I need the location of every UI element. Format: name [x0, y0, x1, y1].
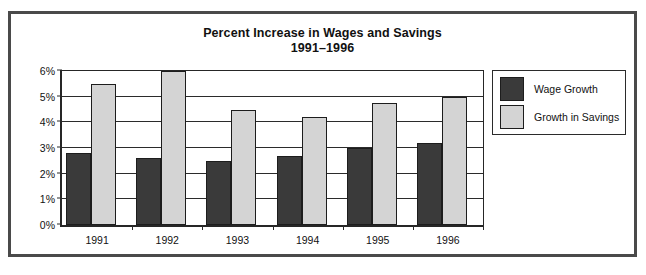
bar-1993-wage-growth[interactable]: [206, 161, 231, 225]
y-axis-label: 6%: [40, 65, 55, 77]
y-axis-label: 4%: [40, 116, 55, 128]
x-axis-tick: [343, 225, 344, 230]
x-axis-tick: [132, 225, 133, 230]
bar-group: [273, 71, 343, 225]
chart-legend: Wage GrowthGrowth in Savings: [492, 70, 626, 135]
bar-group: [413, 71, 483, 225]
chart-title-block: Percent Increase in Wages and Savings 19…: [11, 26, 634, 56]
y-axis-label: 5%: [40, 91, 55, 103]
chart-frame: Percent Increase in Wages and Savings 19…: [8, 11, 637, 257]
bar-1996-wage-growth[interactable]: [417, 143, 442, 225]
y-axis-label: 0%: [40, 219, 55, 231]
page-title: Percent Increase in Wages and Savings: [11, 26, 634, 41]
x-axis-label-1993: 1993: [226, 234, 249, 246]
y-axis-label: 3%: [40, 142, 55, 154]
bar-1995-wage-growth[interactable]: [347, 148, 372, 225]
bar-1996-growth-in-savings[interactable]: [442, 97, 467, 225]
bar-1995-growth-in-savings[interactable]: [372, 103, 397, 225]
legend-item-growth-in-savings[interactable]: Growth in Savings: [500, 105, 619, 129]
legend-label: Wage Growth: [534, 83, 598, 95]
bars-layer: [62, 71, 483, 225]
x-axis-label-1991: 1991: [85, 234, 108, 246]
x-axis-tick: [413, 225, 414, 230]
x-axis-label-1995: 1995: [366, 234, 389, 246]
bar-1991-growth-in-savings[interactable]: [91, 84, 116, 225]
legend-item-wage-growth[interactable]: Wage Growth: [500, 77, 598, 101]
plot-area: 0%1%2%3%4%5%6% 199119921993199419951996: [60, 70, 484, 227]
x-axis-tick: [202, 225, 203, 230]
light-gray-swatch: [500, 105, 524, 129]
x-axis-tick: [483, 225, 484, 230]
bar-1993-growth-in-savings[interactable]: [231, 110, 256, 226]
bar-1994-growth-in-savings[interactable]: [302, 117, 327, 225]
bar-1992-wage-growth[interactable]: [136, 158, 161, 225]
bar-1994-wage-growth[interactable]: [277, 156, 302, 225]
y-axis-label: 1%: [40, 193, 55, 205]
bar-group: [202, 71, 272, 225]
bar-group: [343, 71, 413, 225]
x-axis-label-1994: 1994: [296, 234, 319, 246]
bar-group: [62, 71, 132, 225]
bar-1991-wage-growth[interactable]: [66, 153, 91, 225]
x-axis-label-1996: 1996: [436, 234, 459, 246]
dark-gray-swatch: [500, 77, 524, 101]
legend-label: Growth in Savings: [534, 111, 619, 123]
y-axis-label: 2%: [40, 168, 55, 180]
x-axis-label-1992: 1992: [156, 234, 179, 246]
bar-group: [132, 71, 202, 225]
bar-1992-growth-in-savings[interactable]: [161, 71, 186, 225]
x-axis-tick: [273, 225, 274, 230]
chart-subtitle: 1991–1996: [11, 41, 634, 56]
